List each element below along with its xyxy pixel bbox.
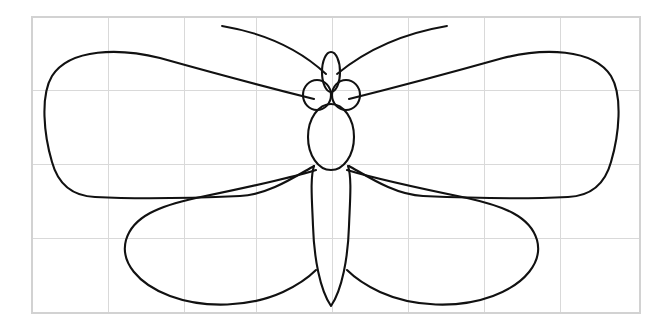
butterfly-figure [0, 0, 663, 327]
drawing-canvas [0, 0, 663, 327]
